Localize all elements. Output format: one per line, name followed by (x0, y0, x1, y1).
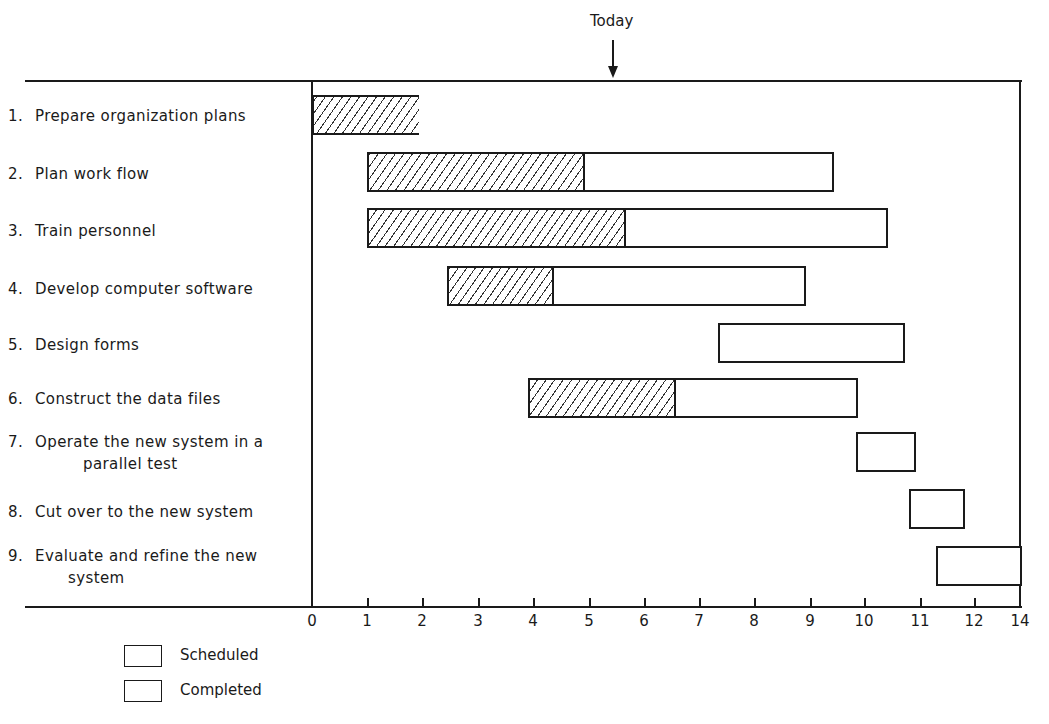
x-tick-label: 14 (1005, 612, 1035, 630)
task-number: 1. (8, 107, 35, 125)
task-bar (936, 546, 1022, 586)
task-number: 6. (8, 390, 35, 408)
task-label: 6.Construct the data files (8, 390, 221, 408)
task-number: 2. (8, 165, 35, 183)
x-tick (810, 598, 812, 607)
completed-segment (369, 210, 626, 246)
x-tick-label: 3 (463, 612, 493, 630)
task-name: Cut over to the new system (35, 503, 253, 521)
x-tick (589, 598, 591, 607)
legend-completed-label: Completed (180, 681, 262, 699)
task-bar (856, 432, 917, 472)
task-name: Prepare organization plans (35, 107, 246, 125)
task-name: Evaluate and refine the new (35, 547, 258, 565)
task-name: Operate the new system in a (35, 433, 263, 451)
task-number: 9. (8, 547, 35, 565)
task-label: 5.Design forms (8, 336, 139, 354)
task-name: Develop computer software (35, 280, 253, 298)
task-label: 2.Plan work flow (8, 165, 149, 183)
x-axis-line (25, 606, 1022, 608)
x-tick-label: 10 (849, 612, 879, 630)
x-tick (367, 598, 369, 607)
x-tick-label: 11 (905, 612, 935, 630)
task-number: 3. (8, 222, 35, 240)
task-number: 7. (8, 433, 35, 451)
task-bar (367, 152, 834, 192)
completed-segment (369, 154, 585, 190)
x-tick (699, 598, 701, 607)
today-label: Today (590, 12, 633, 30)
completed-segment (449, 268, 554, 304)
y-axis-line (311, 80, 313, 608)
x-tick (533, 598, 535, 607)
task-number: 5. (8, 336, 35, 354)
x-tick-label: 5 (574, 612, 604, 630)
task-number: 4. (8, 280, 35, 298)
today-arrow-icon (608, 66, 618, 78)
task-name-continued: parallel test (83, 455, 178, 473)
chart-right-border (1019, 80, 1021, 608)
x-tick-label: 7 (684, 612, 714, 630)
task-bar (367, 208, 888, 248)
task-name: Construct the data files (35, 390, 221, 408)
task-label: 1.Prepare organization plans (8, 107, 246, 125)
legend-scheduled-swatch (124, 645, 162, 667)
completed-segment (530, 380, 676, 416)
x-tick-label: 4 (518, 612, 548, 630)
x-tick (422, 598, 424, 607)
x-tick (644, 598, 646, 607)
legend-completed-swatch (124, 680, 162, 702)
task-bar (718, 323, 905, 363)
x-tick (864, 598, 866, 607)
chart-top-border (25, 80, 1022, 82)
task-name-continued: system (68, 569, 125, 587)
task-bar (909, 489, 965, 529)
task-bar (447, 266, 806, 306)
x-tick-label: 1 (352, 612, 382, 630)
task-label: 9.Evaluate and refine the newsystem (8, 547, 258, 565)
task-name: Train personnel (35, 222, 156, 240)
task-label: 7.Operate the new system in aparallel te… (8, 433, 263, 451)
x-tick-label: 6 (629, 612, 659, 630)
task-bar (528, 378, 858, 418)
task-name: Design forms (35, 336, 139, 354)
x-tick (478, 598, 480, 607)
x-tick (754, 598, 756, 607)
task-number: 8. (8, 503, 35, 521)
task-label: 3.Train personnel (8, 222, 156, 240)
completed-segment (314, 97, 419, 133)
today-arrow-shaft (612, 40, 614, 68)
x-tick (974, 598, 976, 607)
x-tick (920, 598, 922, 607)
x-tick-label: 0 (297, 612, 327, 630)
x-tick-label: 2 (407, 612, 437, 630)
task-name: Plan work flow (35, 165, 149, 183)
x-tick-label: 8 (739, 612, 769, 630)
x-tick-label: 9 (795, 612, 825, 630)
task-label: 4.Develop computer software (8, 280, 253, 298)
task-label: 8.Cut over to the new system (8, 503, 253, 521)
legend-scheduled-label: Scheduled (180, 646, 258, 664)
x-tick-label: 12 (959, 612, 989, 630)
task-bar (312, 95, 419, 135)
